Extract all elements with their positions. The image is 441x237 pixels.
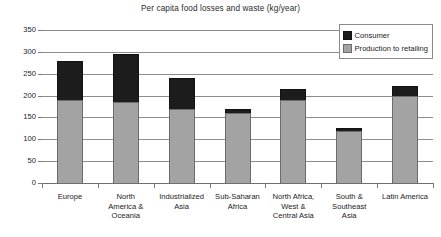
- bar-group: [392, 86, 418, 183]
- x-tick-mark: [98, 183, 99, 188]
- x-tick-mark: [42, 183, 43, 188]
- legend-item-consumer: Consumer: [343, 29, 428, 41]
- x-axis-label-line: Central Asia: [265, 211, 321, 221]
- chart-legend: Consumer Production to retailing: [339, 24, 433, 59]
- x-tick-mark: [265, 183, 266, 188]
- x-axis-label-line: Sub-Saharan: [210, 192, 266, 202]
- y-axis-label-250: 250: [2, 69, 36, 78]
- x-axis-label: South &SoutheastAsia: [321, 192, 377, 221]
- x-axis-label: Europe: [42, 192, 98, 202]
- x-tick-mark: [210, 183, 211, 188]
- x-axis-label: IndustrializedAsia: [154, 192, 210, 211]
- bar-segment-production-to-retailing: [280, 100, 306, 183]
- bar-segment-consumer: [392, 86, 418, 96]
- bar-group: [280, 89, 306, 183]
- bar-segment-production-to-retailing: [336, 131, 362, 183]
- y-axis-label-150: 150: [2, 112, 36, 121]
- bar-segment-production-to-retailing: [169, 109, 195, 183]
- y-axis-label-100: 100: [2, 134, 36, 143]
- y-axis-label-0: 0: [2, 178, 36, 187]
- x-axis-label-line: Asia: [154, 202, 210, 212]
- bar-group: [113, 54, 139, 183]
- bar-segment-consumer: [113, 54, 139, 102]
- bar-segment-production-to-retailing: [225, 113, 251, 183]
- bar-group: [336, 128, 362, 183]
- y-axis-label-350: 350: [2, 25, 36, 34]
- bar-segment-consumer: [336, 128, 362, 131]
- x-axis-label-line: North: [98, 192, 154, 202]
- x-axis-label-line: America &: [98, 202, 154, 212]
- bar-segment-production-to-retailing: [392, 96, 418, 183]
- bar-group: [169, 78, 195, 183]
- black-square-swatch: [343, 31, 352, 40]
- x-axis-label: Latin America: [377, 192, 433, 202]
- bar-segment-consumer: [280, 89, 306, 100]
- x-axis-label: Sub-SaharanAfrica: [210, 192, 266, 211]
- x-axis-label-line: West &: [265, 202, 321, 212]
- x-axis-label-line: Asia: [321, 211, 377, 221]
- x-tick-mark: [377, 183, 378, 188]
- bar-group: [57, 61, 83, 183]
- y-axis-label-300: 300: [2, 47, 36, 56]
- x-axis-label-line: North Africa,: [265, 192, 321, 202]
- x-axis-label-line: Oceania: [98, 211, 154, 221]
- x-axis-label-line: South &: [321, 192, 377, 202]
- x-tick-mark: [433, 183, 434, 188]
- legend-label-production-to-retailing: Production to retailing: [355, 44, 428, 53]
- gridline-0: [42, 183, 433, 184]
- bar-segment-production-to-retailing: [57, 100, 83, 183]
- bar-group: [225, 109, 251, 183]
- x-tick-mark: [154, 183, 155, 188]
- bar-chart: Per capita food losses and waste (kg/yea…: [0, 0, 441, 237]
- bar-segment-consumer: [57, 61, 83, 100]
- x-axis-label-line: Africa: [210, 202, 266, 212]
- chart-title: Per capita food losses and waste (kg/yea…: [0, 4, 441, 13]
- legend-item-production-to-retailing: Production to retailing: [343, 42, 428, 54]
- x-axis-label: North Africa,West &Central Asia: [265, 192, 321, 221]
- x-axis-label-line: Europe: [42, 192, 98, 202]
- legend-label-consumer: Consumer: [355, 31, 390, 40]
- y-axis-label-50: 50: [2, 156, 36, 165]
- x-axis-label: NorthAmerica &Oceania: [98, 192, 154, 221]
- x-axis-label-line: Industrialized: [154, 192, 210, 202]
- bar-segment-consumer: [225, 109, 251, 113]
- gray-square-swatch: [343, 44, 352, 53]
- bar-segment-consumer: [169, 78, 195, 109]
- x-axis-label-line: Southeast: [321, 202, 377, 212]
- x-axis-label-line: Latin America: [377, 192, 433, 202]
- x-tick-mark: [321, 183, 322, 188]
- bar-segment-production-to-retailing: [113, 102, 139, 183]
- y-axis-label-200: 200: [2, 91, 36, 100]
